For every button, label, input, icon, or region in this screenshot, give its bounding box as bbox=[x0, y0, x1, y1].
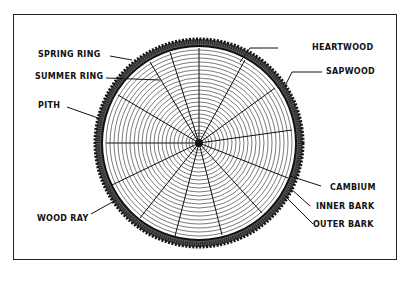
label-inner-bark: INNER BARK bbox=[316, 202, 374, 211]
label-pith: PITH bbox=[38, 101, 60, 110]
label-heartwood: HEARTWOOD bbox=[312, 43, 373, 52]
label-wood-ray: WOOD RAY bbox=[37, 214, 89, 223]
label-cambium: CAMBIUM bbox=[330, 183, 376, 192]
label-spring-ring: SPRING RING bbox=[38, 50, 101, 59]
label-outer-bark: OUTER BARK bbox=[313, 220, 374, 229]
pith bbox=[195, 139, 203, 147]
label-sapwood: SAPWOOD bbox=[326, 67, 375, 76]
label-summer-ring: SUMMER RING bbox=[35, 72, 103, 81]
